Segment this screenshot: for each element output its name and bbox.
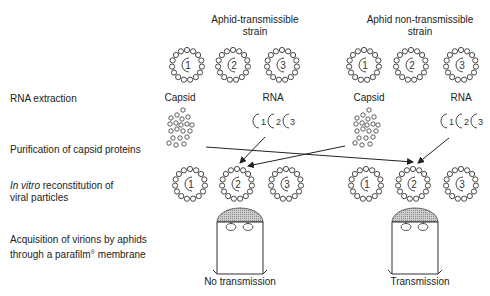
svg-text:3: 3 xyxy=(280,60,286,71)
svg-text:1: 1 xyxy=(449,117,454,127)
svg-text:1: 1 xyxy=(261,117,266,127)
right-reconstituted-virions: 1 2 3 xyxy=(349,166,479,201)
svg-text:2: 2 xyxy=(411,179,417,190)
svg-text:3: 3 xyxy=(290,117,295,127)
diagram-graphics: 1 2 3 1 2 3 1 2 3 1 2 3 1 2 3 1 2 3 xyxy=(0,0,490,296)
right-capsid-pile xyxy=(353,108,380,147)
svg-text:2: 2 xyxy=(276,117,281,127)
right-strain-virions: 1 2 3 xyxy=(347,47,479,82)
svg-text:2: 2 xyxy=(464,117,469,127)
svg-text:3: 3 xyxy=(459,179,465,190)
svg-text:3: 3 xyxy=(284,179,290,190)
recombination-arrows xyxy=(206,137,449,166)
svg-text:1: 1 xyxy=(362,60,368,71)
svg-text:2: 2 xyxy=(231,60,237,71)
svg-text:1: 1 xyxy=(364,179,370,190)
svg-text:1: 1 xyxy=(185,60,191,71)
svg-text:3: 3 xyxy=(459,60,465,71)
left-capsid-pile xyxy=(167,108,194,147)
svg-text:1: 1 xyxy=(188,179,194,190)
left-strain-virions: 1 2 3 xyxy=(170,47,300,82)
svg-text:2: 2 xyxy=(235,179,241,190)
left-rna-segments: 1 2 3 xyxy=(253,114,295,128)
right-rna-segments: 1 2 3 xyxy=(441,114,483,128)
svg-text:3: 3 xyxy=(478,117,483,127)
svg-text:2: 2 xyxy=(409,60,415,71)
aphid-cage-right xyxy=(388,208,442,274)
left-reconstituted-virions: 1 2 3 xyxy=(173,166,304,201)
aphid-cage-left xyxy=(213,208,267,274)
